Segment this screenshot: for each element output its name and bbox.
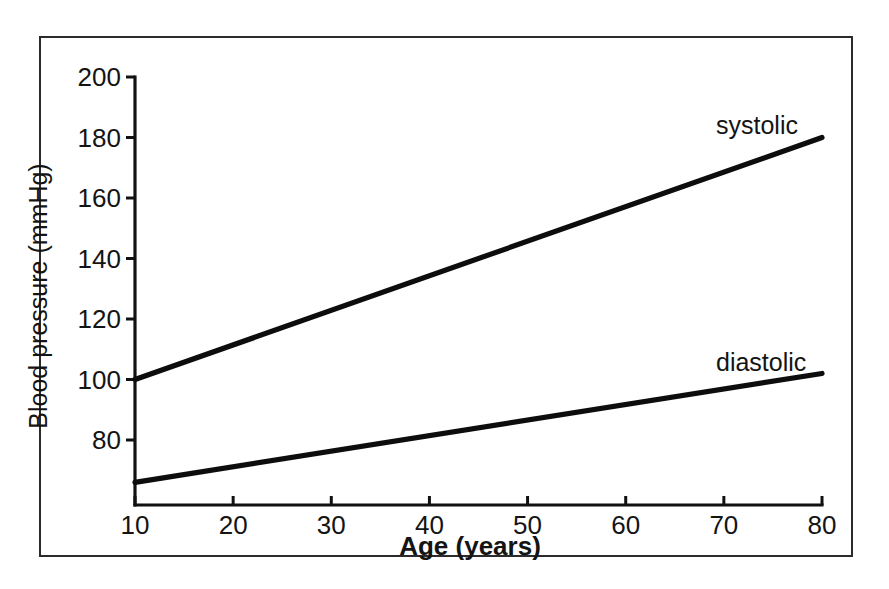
x-axis-tick-label: 30 (317, 512, 346, 538)
y-axis-tick-label: 120 (49, 306, 121, 332)
x-axis-title: Age (years) (399, 531, 541, 562)
series-label-systolic: systolic (716, 111, 798, 140)
y-axis-tick-label: 180 (49, 125, 121, 151)
y-axis-tick-label: 200 (49, 64, 121, 90)
y-axis-tick-label: 160 (49, 185, 121, 211)
x-axis-tick-label: 10 (121, 512, 150, 538)
x-axis-tick-label: 60 (611, 512, 640, 538)
y-axis-tick-label: 140 (49, 246, 121, 272)
x-axis-tick-label: 20 (219, 512, 248, 538)
x-axis-tick-label: 80 (808, 512, 837, 538)
x-axis-tick-label: 70 (709, 512, 738, 538)
y-axis-tick-label: 100 (49, 367, 121, 393)
y-axis-title: Blood pressure (mmHg) (24, 163, 53, 428)
series-label-diastolic: diastolic (716, 348, 806, 377)
y-axis-tick-label: 80 (49, 427, 121, 453)
figure-root: 80100120140160180200 1020304050607080 Bl… (0, 0, 889, 589)
